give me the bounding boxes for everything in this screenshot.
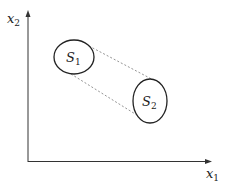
- y-axis-label: x2: [7, 11, 20, 28]
- lower-connector-line: [71, 74, 140, 117]
- upper-connector-line: [89, 46, 161, 84]
- x-axis-arrow-icon: [205, 159, 212, 164]
- diagram-canvas: x2 x1 S1 S2: [0, 0, 225, 185]
- x-axis-label: x1: [206, 166, 219, 183]
- y-axis-arrow-icon: [26, 10, 31, 17]
